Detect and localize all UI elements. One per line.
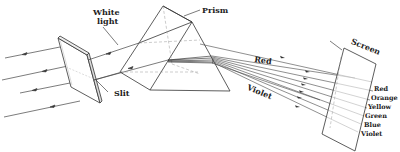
- prism-pointer: [184, 10, 200, 16]
- white-light-pointer: [103, 27, 118, 45]
- diagram-drawing: [0, 0, 400, 152]
- spectrum-label-orange: Orange: [371, 95, 398, 102]
- spectrum-label-green: Green: [365, 113, 387, 120]
- spectrum-label-yellow: Yellow: [368, 104, 391, 111]
- prism-label: Prism: [202, 6, 228, 14]
- red-beam-label: Red: [254, 55, 272, 65]
- white-light-beam: [88, 43, 168, 80]
- spectrum-label-violet: Violet: [361, 131, 382, 138]
- prism: [120, 6, 230, 91]
- white-light-label-line1: White: [93, 8, 120, 16]
- screen-pointer: [330, 41, 342, 50]
- prism-dispersion-diagram: White light Prism Slit Screen Red Violet…: [0, 0, 400, 152]
- white-light-label: White light: [93, 8, 120, 25]
- slit-plate: [58, 36, 102, 103]
- spectrum-label-red: Red: [374, 86, 388, 93]
- white-light-label-line2: light: [97, 17, 120, 25]
- spectrum-label-blue: Blue: [364, 122, 381, 129]
- internal-fan: [168, 56, 213, 63]
- slit-label: Slit: [114, 89, 130, 97]
